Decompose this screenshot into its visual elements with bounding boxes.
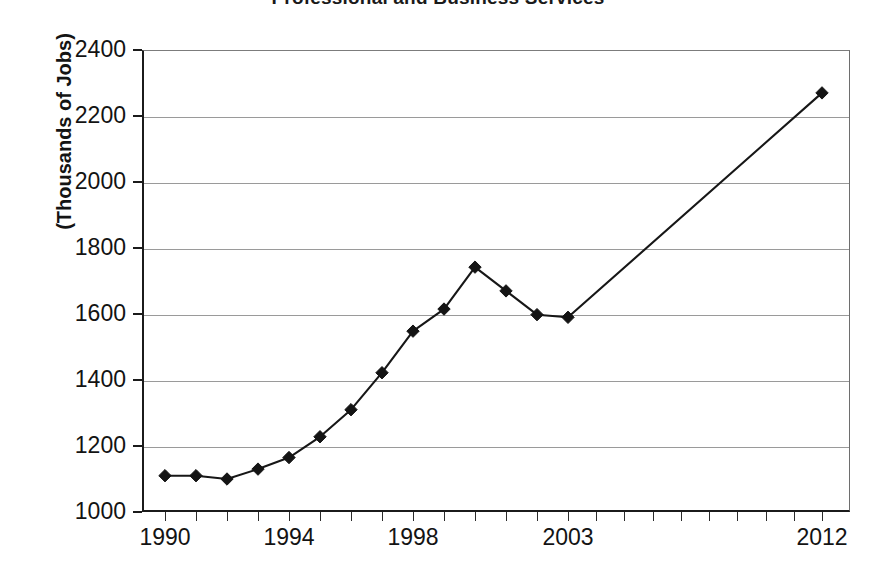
x-tick-label-1998: 1998 — [387, 524, 438, 551]
y-tick-1200 — [133, 445, 142, 447]
x-tick-2006 — [653, 512, 654, 521]
y-tick-1600 — [133, 313, 142, 315]
x-tick-1997 — [382, 512, 383, 521]
x-tick-label-1994: 1994 — [263, 524, 314, 551]
x-tick-2000 — [475, 512, 476, 521]
x-tick-1994 — [289, 512, 290, 521]
gridline-2000 — [144, 183, 849, 184]
y-tick-label-1800: 1800 — [34, 234, 126, 261]
x-tick-2010 — [766, 512, 767, 521]
y-tick-1000 — [133, 511, 142, 513]
x-tick-label-1990: 1990 — [139, 524, 190, 551]
y-tick-label-1200: 1200 — [34, 432, 126, 459]
gridline-2200 — [144, 117, 849, 118]
y-tick-1400 — [133, 379, 142, 381]
x-tick-2009 — [737, 512, 738, 521]
x-tick-1991 — [196, 512, 197, 521]
y-tick-label-2000: 2000 — [34, 168, 126, 195]
x-tick-1999 — [444, 512, 445, 521]
y-tick-2200 — [133, 115, 142, 117]
y-tick-label-1400: 1400 — [34, 366, 126, 393]
y-tick-label-1000: 1000 — [34, 498, 126, 525]
x-tick-2011 — [794, 512, 795, 521]
x-tick-1990 — [165, 512, 166, 521]
x-tick-1996 — [351, 512, 352, 521]
y-tick-2000 — [133, 181, 142, 183]
x-tick-2002 — [537, 512, 538, 521]
chart-title: Professional and Business Services — [0, 0, 876, 9]
y-tick-label-2400: 2400 — [34, 36, 126, 63]
x-tick-2007 — [681, 512, 682, 521]
x-tick-1995 — [320, 512, 321, 521]
x-tick-2012 — [822, 512, 823, 521]
y-tick-label-2200: 2200 — [34, 102, 126, 129]
plot-area — [142, 50, 850, 512]
x-tick-1993 — [258, 512, 259, 521]
x-tick-1992 — [227, 512, 228, 521]
gridline-1600 — [144, 315, 849, 316]
gridline-1400 — [144, 381, 849, 382]
x-tick-label-2003: 2003 — [542, 524, 593, 551]
chart-container: Professional and Business Services (Thou… — [0, 0, 876, 584]
y-tick-label-1600: 1600 — [34, 300, 126, 327]
y-tick-1800 — [133, 247, 142, 249]
x-tick-1998 — [413, 512, 414, 521]
x-tick-label-2012: 2012 — [796, 524, 847, 551]
x-tick-2001 — [506, 512, 507, 521]
gridline-1200 — [144, 447, 849, 448]
gridline-1800 — [144, 249, 849, 250]
x-tick-2005 — [624, 512, 625, 521]
x-tick-2008 — [709, 512, 710, 521]
x-tick-2003 — [568, 512, 569, 521]
y-tick-2400 — [133, 49, 142, 51]
x-tick-2004 — [596, 512, 597, 521]
